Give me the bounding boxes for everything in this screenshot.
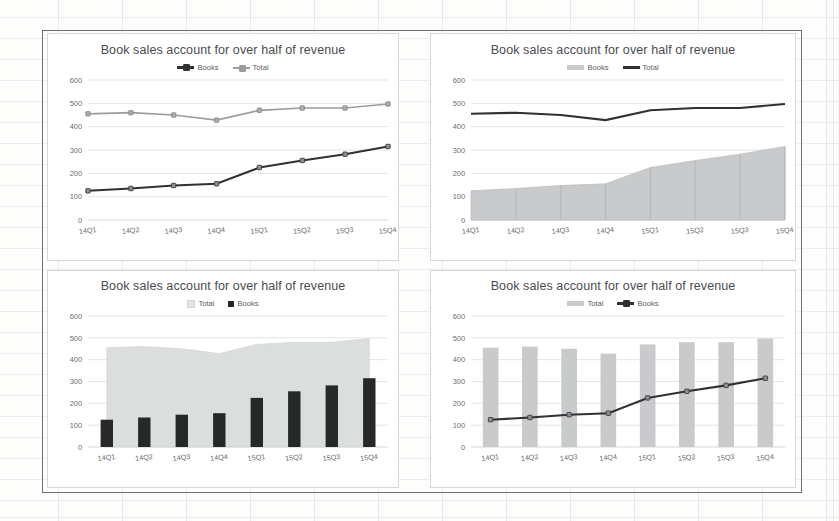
y-axis-tick-label: 500 [453,99,465,108]
bar-total-14Q3 [561,349,577,447]
y-axis-tick-label: 300 [453,377,465,386]
bar-books-15Q3 [326,385,338,447]
y-axis-tick-label: 100 [70,421,82,430]
legend-label-books: Books [197,63,218,72]
x-axis-tick-label: 15Q1 [247,452,266,463]
y-axis-tick-label: 600 [70,76,82,85]
legend-bar-swatch-icon [228,301,234,307]
y-axis-tick-label: 500 [453,334,465,343]
legend-label-total: Total [587,299,603,308]
legend-label-total: Total [198,299,214,308]
chart-svg-top-left: 010020030040050060014Q114Q214Q314Q415Q11… [48,72,399,244]
y-axis-tick-label: 200 [70,399,82,408]
legend-item-books[interactable]: Books [177,63,218,72]
x-axis-tick-label: 14Q3 [560,452,579,463]
bar-books-15Q2 [288,391,300,447]
x-axis-tick-label: 14Q4 [210,452,229,463]
x-axis-tick-label: 15Q3 [336,225,355,236]
legend-label-total: Total [643,63,659,72]
y-axis-tick-label: 200 [453,169,465,178]
legend-label-books: Books [637,299,658,308]
legend-label-total: Total [253,63,269,72]
chart-title-bottom-left: Book sales account for over half of reve… [48,279,398,293]
data-point-books-14Q3 [172,183,176,187]
data-point-books-14Q4 [214,182,218,186]
legend-item-total[interactable]: Total [567,299,603,308]
data-point-books-14Q4 [606,411,610,415]
chart-legend-top-right[interactable]: Books Total [431,63,795,72]
x-axis-tick-label: 14Q2 [520,452,539,463]
x-axis-tick-label: 15Q2 [686,225,705,236]
legend-item-total[interactable]: Total [623,63,659,72]
y-axis-tick-label: 100 [70,192,82,201]
y-axis-tick-label: 600 [453,76,465,85]
x-axis-tick-label: 15Q1 [250,225,269,236]
y-axis-tick-label: 0 [78,216,82,225]
x-axis-tick-label: 15Q4 [775,225,794,236]
x-axis-tick-label: 15Q1 [641,225,660,236]
x-axis-tick-label: 14Q3 [172,452,191,463]
legend-line-marker-icon [177,66,194,68]
data-point-books-15Q2 [685,389,689,393]
bar-total-14Q4 [601,354,617,447]
chart-svg-bottom-left: 010020030040050060014Q114Q214Q314Q415Q11… [48,308,399,471]
y-axis-tick-label: 0 [461,216,465,225]
bar-books-14Q2 [138,418,150,448]
data-point-books-14Q2 [129,186,133,190]
chart-legend-bottom-right[interactable]: Total Books [431,299,795,308]
x-axis-tick-label: 15Q1 [638,452,657,463]
bar-total-15Q4 [758,339,774,448]
legend-item-total[interactable]: Total [233,63,269,72]
x-axis-tick-label: 15Q3 [717,452,736,463]
x-axis-tick-label: 14Q2 [121,225,140,236]
x-axis-tick-label: 14Q4 [599,452,618,463]
legend-label-books: Books [237,299,258,308]
legend-item-books[interactable]: Books [567,63,608,72]
chart-panel-top-left[interactable]: Book sales account for over half of reve… [47,33,399,261]
x-axis-tick-label: 15Q2 [285,452,304,463]
y-axis-tick-label: 300 [453,146,465,155]
x-axis-tick-label: 14Q4 [596,225,615,236]
chart-panel-bottom-right[interactable]: Book sales account for over half of reve… [430,270,796,488]
x-axis-tick-label: 14Q1 [78,225,97,236]
plot-area-top-left: 010020030040050060014Q114Q214Q314Q415Q11… [48,72,398,244]
y-axis-tick-label: 300 [70,377,82,386]
data-point-books-15Q4 [763,376,767,380]
legend-item-books[interactable]: Books [228,299,258,308]
y-axis-tick-label: 400 [70,122,82,131]
series-line-total [471,104,785,120]
bar-books-14Q3 [176,415,188,447]
bar-total-14Q1 [483,348,499,447]
x-axis-tick-label: 15Q3 [731,225,750,236]
legend-item-books[interactable]: Books [617,299,658,308]
plot-area-top-right: 010020030040050060014Q114Q214Q314Q415Q11… [431,72,795,244]
data-point-total-14Q1 [86,112,90,116]
legend-item-total[interactable]: Total [187,299,214,308]
y-axis-tick-label: 0 [78,443,82,452]
chart-legend-top-left[interactable]: Books Total [48,63,398,72]
y-axis-tick-label: 100 [453,421,465,430]
chart-panel-top-right[interactable]: Book sales account for over half of reve… [430,33,796,261]
x-axis-tick-label: 15Q2 [677,452,696,463]
chart-panel-bottom-left[interactable]: Book sales account for over half of reve… [47,270,399,488]
x-axis-tick-label: 15Q4 [378,225,397,236]
chart-svg-top-right: 010020030040050060014Q114Q214Q314Q415Q11… [431,72,796,244]
x-axis-tick-label: 15Q4 [756,452,775,463]
x-axis-tick-label: 14Q1 [97,452,116,463]
data-point-total-14Q3 [172,113,176,117]
x-axis-tick-label: 14Q1 [461,225,480,236]
y-axis-tick-label: 400 [70,355,82,364]
y-axis-tick-label: 200 [70,169,82,178]
data-point-total-14Q4 [214,118,218,122]
data-point-books-15Q1 [257,165,261,169]
plot-area-bottom-right: 010020030040050060014Q114Q214Q314Q415Q11… [431,308,795,471]
bar-books-15Q4 [363,378,375,447]
data-point-books-14Q2 [528,415,532,419]
chart-title-top-right: Book sales account for over half of reve… [431,43,795,57]
bar-books-14Q4 [213,413,225,447]
legend-area-swatch-icon [567,65,584,70]
bar-books-15Q1 [251,398,263,447]
y-axis-tick-label: 400 [453,355,465,364]
y-axis-tick-label: 400 [453,122,465,131]
chart-legend-bottom-left[interactable]: Total Books [48,299,398,308]
